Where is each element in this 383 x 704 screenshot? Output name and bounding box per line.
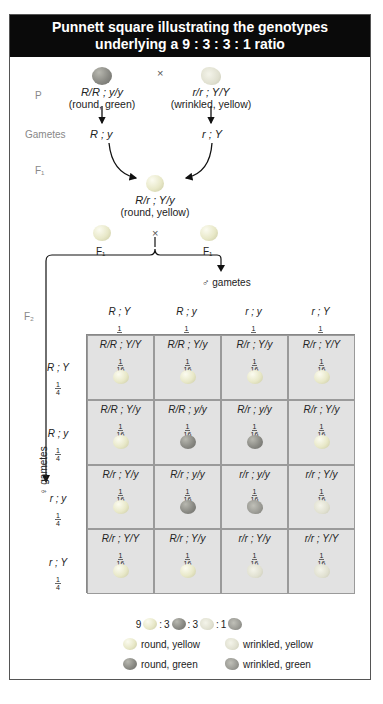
- punnett-cell: R/r ; y/y 116: [221, 400, 288, 465]
- punnett-grid: R/R ; Y/Y 116 R/R ; Y/y 116 R/r ; Y/y 11…: [86, 334, 355, 593]
- cell-genotype: r/r ; Y/Y: [289, 533, 354, 544]
- row-header: R ; y 14: [40, 428, 76, 462]
- punnett-cell: R/R ; Y/y 116: [154, 335, 221, 400]
- pea-round-yellow-icon: [143, 618, 157, 630]
- pea-round-yellow-icon: [113, 435, 129, 449]
- cell-genotype: R/R ; Y/Y: [88, 339, 153, 350]
- pea-round-yellow-icon: [93, 225, 111, 241]
- cross-symbol: ×: [152, 227, 158, 239]
- pea-wrinkled-yellow-icon: [314, 564, 330, 578]
- parent-left: R/R ; y/y (round, green): [52, 86, 152, 110]
- pea-round-yellow-icon: [113, 564, 129, 578]
- pea-round-yellow-icon: [146, 175, 164, 192]
- f1-right-label: F₁: [203, 246, 212, 257]
- punnett-cell: r/r ; Y/y 116: [221, 529, 288, 594]
- pea-round-yellow-icon: [247, 370, 263, 384]
- punnett-cell: R/R ; y/y 116: [154, 400, 221, 465]
- gamete-right: r ; Y: [202, 128, 222, 140]
- pea-round-green-icon: [247, 435, 263, 449]
- punnett-cell: r/r ; y/y 116: [221, 465, 288, 530]
- punnett-cell: R/r ; Y/y 116: [221, 335, 288, 400]
- legend-grid: round, yellow wrinkled, yellow round, gr…: [123, 638, 369, 670]
- punnett-cell: R/r ; Y/y 116: [288, 400, 355, 465]
- pea-round-yellow-icon: [314, 370, 330, 384]
- cell-genotype: r/r ; Y/y: [289, 469, 354, 480]
- pea-round-yellow-icon: [113, 500, 129, 514]
- pea-round-yellow-icon: [113, 370, 129, 384]
- punnett-cell: R/R ; Y/y 116: [87, 400, 154, 465]
- label-gametes: Gametes: [25, 129, 66, 140]
- pea-round-yellow-icon: [180, 370, 196, 384]
- pea-wrinkled-yellow-icon: [314, 500, 330, 514]
- row-header: R ; Y 14: [40, 362, 76, 396]
- punnett-cell: R/r ; y/y 116: [154, 465, 221, 530]
- pea-round-green-icon: [180, 500, 196, 514]
- pea-round-yellow-icon: [314, 435, 330, 449]
- row-header: r ; y 14: [40, 493, 76, 527]
- cross-symbol: ×: [157, 67, 163, 79]
- punnett-cell: r/r ; Y/y 116: [288, 465, 355, 530]
- f1-genotype: R/r ; Y/y: [100, 194, 210, 206]
- label-p: P: [35, 90, 42, 101]
- cell-genotype: R/r ; Y/Y: [289, 339, 354, 350]
- legend-item: round, green: [123, 658, 219, 670]
- pea-round-green-icon: [180, 435, 196, 449]
- punnett-cell: R/r ; Y/Y 116: [288, 335, 355, 400]
- parent-left-phenotype: (round, green): [52, 98, 152, 110]
- legend-item: wrinkled, green: [225, 658, 325, 670]
- f1-phenotype: (round, yellow): [100, 206, 210, 218]
- cell-genotype: R/r ; Y/y: [289, 404, 354, 415]
- ratio-line: 9 :3 :3 :1: [9, 618, 369, 630]
- punnett-cell: r/r ; Y/Y 116: [288, 529, 355, 594]
- pea-wrinkled-green-icon: [225, 658, 239, 670]
- punnett-cell: R/r ; Y/y 116: [87, 465, 154, 530]
- pea-round-green-icon: [172, 618, 186, 630]
- row-header: r ; Y 14: [40, 557, 76, 591]
- pea-round-yellow-icon: [200, 225, 218, 241]
- punnett-cell: R/r ; Y/Y 116: [87, 529, 154, 594]
- pea-wrinkled-yellow-icon: [247, 564, 263, 578]
- f1-left-label: F₁: [96, 246, 105, 257]
- cell-genotype: R/r ; Y/y: [88, 469, 153, 480]
- f1-genotype-block: R/r ; Y/y (round, yellow): [100, 194, 210, 218]
- pea-round-yellow-icon: [180, 564, 196, 578]
- cell-genotype: r/r ; y/y: [222, 469, 287, 480]
- cell-genotype: R/R ; Y/y: [155, 339, 220, 350]
- parent-right: r/r ; Y/Y (wrinkled, yellow): [156, 86, 266, 110]
- pea-round-green-icon: [92, 67, 112, 85]
- cell-genotype: R/r ; y/y: [155, 469, 220, 480]
- cell-genotype: R/r ; Y/y: [222, 339, 287, 350]
- punnett-cell: R/R ; Y/Y 116: [87, 335, 154, 400]
- parent-right-genotype: r/r ; Y/Y: [156, 86, 266, 98]
- pea-wrinkled-yellow-icon: [201, 67, 221, 85]
- pea-round-green-icon: [123, 658, 137, 670]
- pea-wrinkled-green-icon: [247, 500, 263, 514]
- pea-round-yellow-icon: [123, 638, 137, 650]
- cell-genotype: R/r ; y/y: [222, 404, 287, 415]
- pea-wrinkled-yellow-icon: [200, 618, 214, 630]
- ratio-legend: 9 :3 :3 :1 round, yellow wrinkled, yello…: [9, 618, 369, 670]
- cell-genotype: R/r ; Y/Y: [88, 533, 153, 544]
- cell-genotype: r/r ; Y/y: [222, 533, 287, 544]
- legend-item: wrinkled, yellow: [225, 638, 325, 650]
- male-gametes-label: ♂ gametes: [202, 277, 251, 288]
- punnett-cell: R/r ; Y/y 116: [154, 529, 221, 594]
- label-f1: F₁: [35, 165, 44, 176]
- parent-right-phenotype: (wrinkled, yellow): [156, 98, 266, 110]
- parent-left-genotype: R/R ; y/y: [52, 86, 152, 98]
- legend-item: round, yellow: [123, 638, 219, 650]
- gamete-left: R ; y: [90, 128, 113, 140]
- cell-genotype: R/r ; Y/y: [155, 533, 220, 544]
- pea-wrinkled-yellow-icon: [225, 638, 239, 650]
- pea-wrinkled-green-icon: [228, 618, 242, 630]
- cell-genotype: R/R ; y/y: [155, 404, 220, 415]
- cell-genotype: R/R ; Y/y: [88, 404, 153, 415]
- label-f2: F₂: [24, 311, 34, 322]
